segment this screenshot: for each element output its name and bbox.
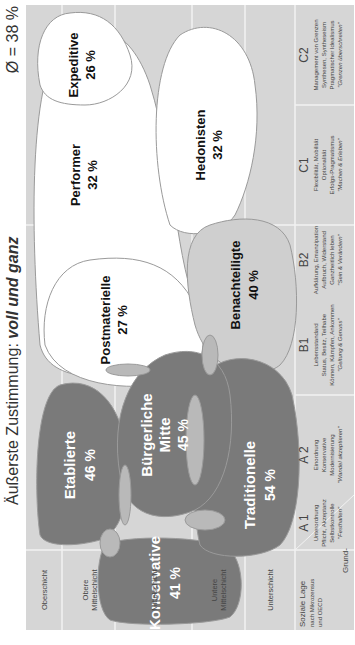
etablierte-value: 46 % xyxy=(82,448,98,480)
postmaterielle-label: Postmaterielle xyxy=(98,276,113,365)
col-c2-line4: "Grenzen überschreiten" xyxy=(337,21,343,87)
buergerliche-mitte-label-2: Mitte xyxy=(156,418,173,453)
col-c2-line3: Pragmatischer Idealismus xyxy=(329,20,335,89)
milieu-chart: Äußerste Zustimmung: voll und ganz Ø = 3… xyxy=(0,0,355,645)
col-b1-line1: Lebensstandard xyxy=(313,323,319,366)
etablierte-label: Etablierte xyxy=(61,431,78,499)
traditionelle-value: 54 % xyxy=(262,468,278,500)
corner-sub2: und OECD xyxy=(317,597,323,627)
benachteiligte-value: 40 % xyxy=(246,270,261,300)
col-b1-line2: Status, Besitz, Teilhabe xyxy=(321,313,327,376)
col-b2-line3: Ganzheitlich leben xyxy=(329,235,335,284)
row-untere-mittelschicht-2: Mittelschicht xyxy=(219,568,228,610)
col-b1-code: B1 xyxy=(297,337,311,352)
col-b2-line4: "Sein & Verändern" xyxy=(337,233,343,285)
col-b2-line1: Aufklärung, Emanzipation xyxy=(313,226,319,294)
konservative-value: 41 % xyxy=(167,566,183,598)
col-b2-code: B2 xyxy=(297,252,311,267)
corner-sub1: nach Mikrozensus xyxy=(309,579,315,627)
corner-soziale-lage: Soziale Lage xyxy=(298,580,307,627)
col-b2-line2: Aufbruch, Widerstand xyxy=(321,231,327,289)
benachteiligte-label: Benachteiligte xyxy=(228,241,243,330)
col-a1-line2: Pflicht, Akzeptanz xyxy=(321,499,327,546)
buergerliche-mitte-value: 45 % xyxy=(175,418,191,450)
expeditive-label: Expeditive xyxy=(66,32,81,97)
traditionelle-label: Traditionelle xyxy=(241,441,258,529)
col-b1-line3: Können, Kämpfen, Ankommen xyxy=(329,304,335,385)
buergerliche-mitte-label-1: Bürgerliche xyxy=(138,393,155,476)
col-a1-line3: Selbstkontrolle xyxy=(329,503,335,543)
postmaterielle-value: 27 % xyxy=(115,305,130,335)
performer-label: Performer xyxy=(68,144,83,206)
col-c1-line2: Optionalität xyxy=(321,149,327,180)
col-a2-line4: "Wandel akzeptieren" xyxy=(337,426,343,484)
chart-canvas: Konservative 41 % Etablierte 46 % Tradit… xyxy=(0,0,355,645)
col-c1-code: C1 xyxy=(297,157,311,173)
col-a1-line4: "Festhalten" xyxy=(337,506,343,539)
performer-value: 32 % xyxy=(85,160,100,190)
row-obere-mittelschicht-2: Mittelschicht xyxy=(90,568,99,610)
col-c1-line4: "Machen & Erleben" xyxy=(337,137,343,191)
col-a2-code: A 2 xyxy=(297,446,311,464)
col-c2-line2: Synthesen, Syntheseism xyxy=(321,22,327,88)
col-c2-line1: Management von Grenzen xyxy=(313,19,319,90)
col-a2-line2: Konservative xyxy=(321,437,327,472)
row-untere-mittelschicht: Untere xyxy=(210,579,219,602)
col-a1-code: A 1 xyxy=(297,514,311,532)
col-c1-line3: Erfolgs-Pragmatismus xyxy=(329,135,335,194)
hedonisten-label: Hedonisten xyxy=(193,110,208,181)
corner-grund: Grund- xyxy=(341,548,350,573)
expeditive-value: 26 % xyxy=(83,50,98,80)
row-obere-mittelschicht: Obere xyxy=(81,580,90,601)
col-a1-line1: Unterordnung xyxy=(313,505,319,542)
col-b1-line4: "Geltung & Genuss" xyxy=(337,317,343,371)
row-unterschicht: Unterschicht xyxy=(266,568,275,611)
col-a2-line3: Modernisierung xyxy=(329,434,335,475)
row-oberschicht: Oberschicht xyxy=(40,569,49,610)
col-c2-code: C2 xyxy=(297,47,311,63)
col-c1-line1: Flexibilität, Mobilität xyxy=(313,138,319,191)
col-a2-line1: Einordnung xyxy=(313,440,319,471)
hedonisten-value: 32 % xyxy=(210,130,225,160)
row-mittelschicht: Mittelschicht xyxy=(150,568,159,610)
